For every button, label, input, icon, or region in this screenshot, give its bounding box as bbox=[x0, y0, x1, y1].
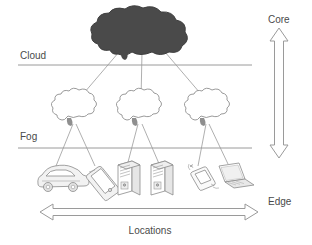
fog-node-center-tail bbox=[132, 118, 138, 126]
link-fog-center-server1 bbox=[127, 124, 138, 166]
fog-node-center bbox=[116, 88, 161, 126]
fog-node-left-shape bbox=[51, 88, 96, 120]
server1-indicator bbox=[123, 184, 125, 186]
fog-node-center-shape bbox=[116, 88, 161, 120]
edge-device-sensor bbox=[188, 164, 219, 190]
car-hubcap-rear bbox=[71, 185, 75, 189]
phone-home-button bbox=[108, 188, 111, 191]
axis-label-locations: Locations bbox=[0, 225, 300, 236]
locations-arrow-shape bbox=[40, 204, 258, 220]
fog-node-left bbox=[51, 88, 96, 126]
sensor-antenna-dot bbox=[190, 165, 192, 167]
fog-architecture-diagram: Cloud Fog Core Edge Locations bbox=[0, 0, 312, 245]
car-hubcap-front bbox=[46, 185, 50, 189]
edge-device-car bbox=[38, 165, 89, 191]
fog-node-right bbox=[184, 88, 229, 126]
axis-label-core: Core bbox=[268, 14, 290, 25]
link-fog-right-sensor bbox=[198, 124, 206, 166]
edge-device-server-2 bbox=[151, 161, 173, 195]
cloud-core-tail bbox=[121, 50, 128, 60]
cloud-core bbox=[91, 6, 188, 60]
fog-node-left-tail bbox=[67, 118, 73, 126]
fog-to-edge-links bbox=[56, 124, 228, 166]
diagram-canvas bbox=[0, 0, 312, 245]
locations-axis-arrow bbox=[40, 204, 258, 220]
axis-label-edge: Edge bbox=[268, 196, 291, 207]
edge-device-server-1 bbox=[118, 161, 140, 195]
link-fog-left-phone bbox=[76, 124, 95, 166]
link-fog-left-car bbox=[56, 124, 73, 166]
tier-label-cloud: Cloud bbox=[20, 50, 46, 61]
fog-node-right-tail bbox=[200, 118, 206, 126]
core-edge-arrow-shape bbox=[270, 28, 288, 158]
fog-node-right-shape bbox=[184, 88, 229, 120]
link-fog-right-laptop bbox=[209, 124, 228, 164]
edge-device-phone bbox=[86, 166, 119, 200]
edge-device-laptop bbox=[219, 163, 254, 188]
server2-indicator bbox=[156, 184, 158, 186]
tier-label-fog: Fog bbox=[20, 131, 37, 142]
core-edge-axis-arrow bbox=[270, 28, 288, 158]
link-fog-center-server2 bbox=[142, 124, 160, 166]
cloud-core-shape bbox=[91, 6, 188, 55]
